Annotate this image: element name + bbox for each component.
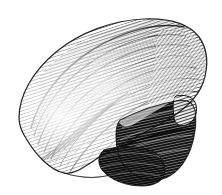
fossil-engraving-figure [0,0,222,195]
fossil-shell-illustration [0,0,222,195]
